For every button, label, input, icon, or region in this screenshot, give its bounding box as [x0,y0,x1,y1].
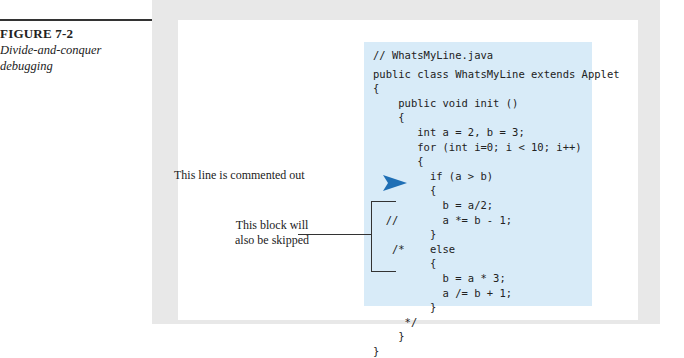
skipped-block-label: This block will also be skipped [222,218,322,248]
code-line: b = a * 3; [373,272,506,284]
code-line: } [373,330,405,342]
code-line: for (int i=0; i < 10; i++) [373,141,582,153]
code-line: { [373,111,405,123]
code-line: } [373,301,436,313]
code-line: a /= b + 1; [373,287,512,299]
code-line: int a = 2, b = 3; [373,126,525,138]
code-line: { [373,155,424,167]
figure-number: FIGURE 7-2 [0,26,160,42]
code-filename-comment: // WhatsMyLine.java [373,49,493,61]
code-line-block-comment-end: */ [373,316,417,328]
figure-title-line1: Divide-and-conquer [0,42,160,58]
code-line: { [373,82,379,94]
commented-line-label: This line is commented out [174,168,305,183]
figure-title-line2: debugging [0,58,160,74]
arrow-pointer-icon [383,175,407,191]
block-bracket [371,201,396,272]
code-listing: // WhatsMyLine.javapublic class WhatsMyL… [373,48,620,358]
caption-rule [0,19,160,21]
skipped-block-label-line1: This block will [222,218,322,233]
code-line: public class WhatsMyLine extends Applet [373,68,620,80]
skipped-block-label-line2: also be skipped [222,233,322,248]
figure-caption: FIGURE 7-2 Divide-and-conquer debugging [0,26,160,74]
code-line: } [373,345,379,357]
leader-line [298,234,371,235]
code-line: public void init () [373,97,518,109]
